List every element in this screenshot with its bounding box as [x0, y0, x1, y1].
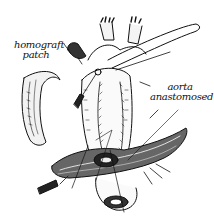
- homograft-label-line2: patch: [14, 50, 58, 60]
- great-vessels-drawing: [64, 17, 146, 64]
- illustration: homograft patch aorta anastomosed: [0, 0, 214, 221]
- aorta-label-line2: anastomosed: [150, 92, 210, 102]
- homograft-patch-label: homograft patch: [14, 40, 58, 60]
- aorta-anastomosed-label: aorta anastomosed: [150, 82, 210, 102]
- homograft-patch-drawing: [22, 71, 60, 145]
- aorta-leader-line: [140, 82, 150, 86]
- surgical-drawing: [0, 0, 214, 221]
